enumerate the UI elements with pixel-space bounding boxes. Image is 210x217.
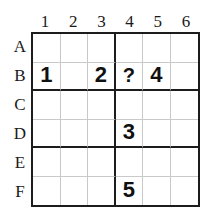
cell-c5[interactable]: [143, 91, 171, 120]
cell-d4[interactable]: 3: [116, 120, 144, 149]
column-header-3: 3: [87, 12, 115, 32]
row-header-column: A B C D E F: [10, 32, 30, 207]
cell-b3[interactable]: 2: [88, 63, 116, 92]
cell-a2[interactable]: [61, 34, 89, 63]
cell-b6[interactable]: [171, 63, 199, 92]
cell-digit: 5: [123, 179, 135, 201]
cell-digit: 4: [150, 64, 162, 86]
cell-f1[interactable]: [33, 177, 61, 206]
cell-b4[interactable]: ?: [116, 63, 144, 92]
cell-c6[interactable]: [171, 91, 199, 120]
cell-b5[interactable]: 4: [143, 63, 171, 92]
cell-c1[interactable]: [33, 91, 61, 120]
row-header-a: A: [10, 32, 30, 61]
cell-e2[interactable]: [61, 148, 89, 177]
column-header-6: 6: [172, 12, 200, 32]
cell-e5[interactable]: [143, 148, 171, 177]
cell-unknown-marker: ?: [123, 65, 135, 85]
column-header-2: 2: [59, 12, 87, 32]
column-header-row: 1 2 3 4 5 6: [31, 12, 200, 32]
row-header-c: C: [10, 90, 30, 119]
sudoku-puzzle: 1 2 3 4 5 6 A B C D E F 12?435: [0, 0, 210, 217]
cell-e1[interactable]: [33, 148, 61, 177]
cell-e4[interactable]: [116, 148, 144, 177]
cell-d2[interactable]: [61, 120, 89, 149]
column-header-1: 1: [31, 12, 59, 32]
cell-digit: 3: [123, 121, 135, 143]
cell-b2[interactable]: [61, 63, 89, 92]
cell-d5[interactable]: [143, 120, 171, 149]
cell-c2[interactable]: [61, 91, 89, 120]
row-header-e: E: [10, 149, 30, 178]
cell-f5[interactable]: [143, 177, 171, 206]
cell-a6[interactable]: [171, 34, 199, 63]
row-header-f: F: [10, 178, 30, 207]
cell-c4[interactable]: [116, 91, 144, 120]
cell-digit: 1: [40, 64, 52, 86]
cell-f6[interactable]: [171, 177, 199, 206]
column-header-5: 5: [144, 12, 172, 32]
cell-e6[interactable]: [171, 148, 199, 177]
cell-f3[interactable]: [88, 177, 116, 206]
cell-e3[interactable]: [88, 148, 116, 177]
cell-f4[interactable]: 5: [116, 177, 144, 206]
sudoku-grid: 12?435: [31, 32, 200, 207]
cell-d6[interactable]: [171, 120, 199, 149]
cell-f2[interactable]: [61, 177, 89, 206]
row-header-b: B: [10, 61, 30, 90]
cell-a3[interactable]: [88, 34, 116, 63]
cell-c3[interactable]: [88, 91, 116, 120]
row-header-d: D: [10, 120, 30, 149]
cell-digit: 2: [95, 64, 107, 86]
cell-b1[interactable]: 1: [33, 63, 61, 92]
column-header-4: 4: [116, 12, 144, 32]
cell-a1[interactable]: [33, 34, 61, 63]
cell-d3[interactable]: [88, 120, 116, 149]
cell-d1[interactable]: [33, 120, 61, 149]
cell-a4[interactable]: [116, 34, 144, 63]
cell-a5[interactable]: [143, 34, 171, 63]
